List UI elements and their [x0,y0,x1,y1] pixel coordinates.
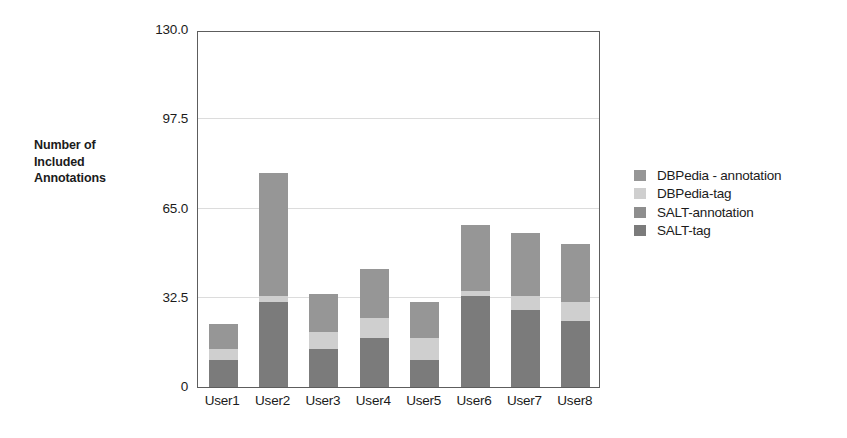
x-axis-tick-label: User6 [449,393,499,408]
bar-segment[interactable] [360,318,389,337]
bar-segment[interactable] [461,225,490,291]
y-axis-tick-label: 0 [118,379,188,394]
bar-segment[interactable] [209,324,238,349]
bar-segment[interactable] [209,349,238,360]
x-axis-tick-label: User4 [348,393,398,408]
y-axis-tick-labels: 130.097.565.032.50 [110,0,188,438]
legend-item[interactable]: SALT-annotation [634,203,844,222]
x-axis-tick-label: User8 [550,393,600,408]
bar-group[interactable] [410,302,439,387]
bar-segment[interactable] [511,233,540,296]
bar-segment[interactable] [360,338,389,387]
legend-swatch-icon [634,170,646,181]
bar-segment[interactable] [259,173,288,297]
bar-segment[interactable] [209,360,238,387]
y-axis-tick-label: 32.5 [118,290,188,305]
legend-item[interactable]: DBPedia-tag [634,185,844,204]
legend-item[interactable]: SALT-tag [634,222,844,241]
bar-segment[interactable] [511,296,540,310]
x-axis-tick-label: User7 [499,393,549,408]
plot-area [197,31,600,388]
bar-group[interactable] [209,324,238,387]
bar-group[interactable] [360,269,389,387]
bar-group[interactable] [309,294,338,387]
legend: DBPedia - annotationDBPedia-tagSALT-anno… [634,166,844,240]
bar-segment[interactable] [259,302,288,387]
bar-segment[interactable] [561,302,590,321]
x-axis-tick-label: User3 [298,393,348,408]
bar-segment[interactable] [561,321,590,387]
legend-item-label: DBPedia-tag [657,186,731,201]
y-axis-tick-label: 97.5 [118,111,188,126]
chart-figure: Number of Included Annotations 130.097.5… [0,0,847,438]
bar-segment[interactable] [309,332,338,348]
x-axis-tick-label: User5 [399,393,449,408]
bar-segment[interactable] [410,360,439,387]
legend-item[interactable]: DBPedia - annotation [634,166,844,185]
bar-group[interactable] [259,173,288,387]
bar-segment[interactable] [360,269,389,318]
legend-item-label: DBPedia - annotation [657,168,781,183]
bar-segment[interactable] [511,310,540,387]
y-axis-tick-label: 130.0 [118,22,188,37]
bar-segment[interactable] [561,244,590,302]
legend-swatch-icon [634,207,646,218]
bar-group[interactable] [561,244,590,387]
legend-swatch-icon [634,225,646,236]
legend-item-label: SALT-annotation [657,205,754,220]
bar-segment[interactable] [309,349,338,387]
bar-segment[interactable] [410,302,439,338]
bar-segment[interactable] [410,338,439,360]
x-axis-tick-label: User2 [247,393,297,408]
bar-series-layer [198,32,599,387]
legend-item-label: SALT-tag [657,223,711,238]
legend-swatch-icon [634,188,646,199]
bar-group[interactable] [461,225,490,387]
bar-segment[interactable] [461,296,490,387]
bar-group[interactable] [511,233,540,387]
x-axis-tick-label: User1 [197,393,247,408]
x-axis-tick-labels: User1User2User3User4User5User6User7User8 [197,393,600,415]
bar-segment[interactable] [309,294,338,332]
y-axis-tick-label: 65.0 [118,201,188,216]
